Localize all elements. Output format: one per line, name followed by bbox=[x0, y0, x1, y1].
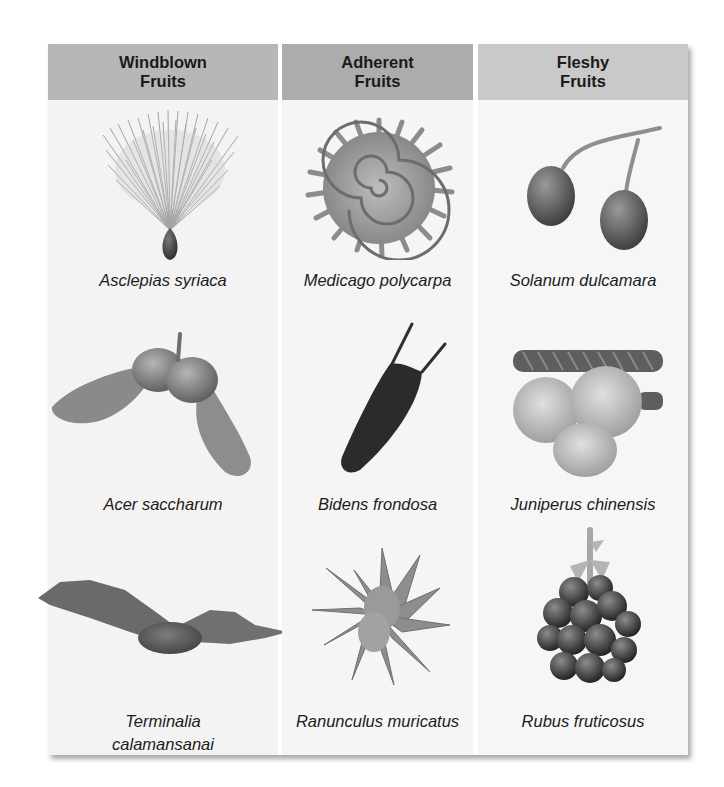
fruit-cell: Juniperus chinensis bbox=[478, 322, 688, 522]
tufted-seed-icon bbox=[48, 100, 278, 260]
fruit-dispersal-table: Windblown Fruits bbox=[48, 44, 688, 755]
fruit-cell: Solanum dulcamara bbox=[478, 100, 688, 300]
column-fleshy: Fleshy Fruits Solanum dulcamara bbox=[478, 44, 688, 755]
fruit-cell: Asclepias syriaca bbox=[48, 100, 278, 300]
berry-pair-icon bbox=[478, 100, 693, 260]
fruit-name: Medicago polycarpa bbox=[282, 269, 473, 292]
fruit-name: Ranunculus muricatus bbox=[282, 710, 473, 733]
fruit-cell: Bidens frondosa bbox=[282, 322, 473, 522]
fruit-name: Terminalia calamansanai bbox=[48, 710, 278, 756]
fruit-name: Acer saccharum bbox=[48, 493, 278, 516]
fruit-name: Juniperus chinensis bbox=[478, 493, 688, 516]
fruit-name: Rubus fruticosus bbox=[478, 710, 688, 733]
fruit-cell: Terminalia calamansanai bbox=[48, 520, 278, 755]
fruit-name: Solanum dulcamara bbox=[478, 269, 688, 292]
column-adherent: Adherent Fruits bbox=[282, 44, 473, 755]
fruit-cell: Rubus fruticosus bbox=[478, 520, 688, 755]
fruit-name: Bidens frondosa bbox=[282, 493, 473, 516]
juniper-cone-icon bbox=[478, 322, 693, 487]
winged-fruit-icon bbox=[30, 520, 300, 700]
blackberry-icon bbox=[478, 520, 693, 700]
fruit-name: Asclepias syriaca bbox=[48, 269, 278, 292]
fruit-cell: Medicago polycarpa bbox=[282, 100, 473, 300]
column-header-adherent: Adherent Fruits bbox=[282, 44, 473, 100]
column-header-fleshy: Fleshy Fruits bbox=[478, 44, 688, 100]
spiral-burr-icon bbox=[282, 100, 477, 260]
winged-samara-icon bbox=[40, 322, 280, 487]
spiny-star-achene-icon bbox=[282, 520, 477, 700]
barbed-achene-icon bbox=[282, 322, 477, 487]
column-header-windblown: Windblown Fruits bbox=[48, 44, 278, 100]
column-windblown: Windblown Fruits bbox=[48, 44, 278, 755]
fruit-cell: Acer saccharum bbox=[48, 322, 278, 522]
fruit-cell: Ranunculus muricatus bbox=[282, 520, 473, 755]
